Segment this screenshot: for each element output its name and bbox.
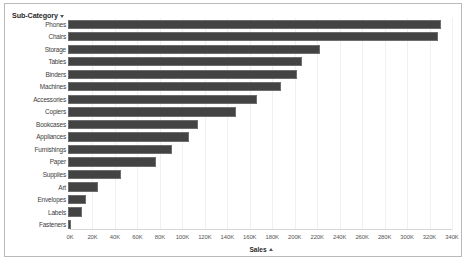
bar-row-label[interactable]: Supplies <box>5 171 68 178</box>
bar-row: Furnishings <box>5 144 461 154</box>
bar[interactable] <box>68 70 297 79</box>
bar-row: Art <box>5 182 461 192</box>
bar[interactable] <box>68 95 257 104</box>
x-axis-tick-label: 0K <box>66 234 73 240</box>
bar[interactable] <box>68 45 320 54</box>
bar-row-label[interactable]: Copiers <box>5 108 68 115</box>
x-axis-tick-label: 120K <box>198 234 211 240</box>
x-axis-tick-label: 140K <box>221 234 234 240</box>
bar-row: Paper <box>5 157 461 167</box>
plot-area: PhonesChairsStorageTablesBindersMachines… <box>5 18 461 256</box>
bar-track <box>68 119 461 129</box>
bar-row: Storage <box>5 44 461 54</box>
x-axis-tick-label: 160K <box>243 234 256 240</box>
bar[interactable] <box>68 82 281 91</box>
x-axis-line <box>70 229 452 230</box>
bar[interactable] <box>68 120 198 129</box>
bar-track <box>68 82 461 92</box>
x-axis-title: Sales <box>70 244 452 255</box>
x-axis-tick-label: 180K <box>266 234 279 240</box>
x-axis-tick-label: 200K <box>288 234 301 240</box>
bar-track <box>68 132 461 142</box>
bar-row: Appliances <box>5 132 461 142</box>
x-axis-tick-label: 240K <box>333 234 346 240</box>
bar-row-label[interactable]: Phones <box>5 21 68 28</box>
x-axis-tick-label: 220K <box>310 234 323 240</box>
bar-track <box>68 107 461 117</box>
bar-track <box>68 32 461 42</box>
x-axis-tick-label: 260K <box>355 234 368 240</box>
bar[interactable] <box>68 207 82 216</box>
x-axis-tick-label: 300K <box>400 234 413 240</box>
bar-rows: PhonesChairsStorageTablesBindersMachines… <box>5 18 461 230</box>
bar-track <box>68 182 461 192</box>
x-axis-tick-label: 280K <box>378 234 391 240</box>
bar-row-label[interactable]: Machines <box>5 83 68 90</box>
bar-row: Chairs <box>5 32 461 42</box>
bar[interactable] <box>68 32 438 41</box>
bar-row-label[interactable]: Art <box>5 184 68 191</box>
bar[interactable] <box>68 20 441 29</box>
bar-row-label[interactable]: Tables <box>5 58 68 65</box>
bar-row-label[interactable]: Bookcases <box>5 121 68 128</box>
bar-row-label[interactable]: Appliances <box>5 133 68 140</box>
x-axis-title-label: Sales <box>249 246 266 253</box>
bar-row-label[interactable]: Paper <box>5 158 68 165</box>
bar-row-label[interactable]: Binders <box>5 71 68 78</box>
bar-row: Tables <box>5 57 461 67</box>
bar-track <box>68 19 461 29</box>
bar-row: Bookcases <box>5 119 461 129</box>
x-axis-tick-label: 340K <box>445 234 458 240</box>
bar-row-label[interactable]: Envelopes <box>5 196 68 203</box>
bar[interactable] <box>68 195 86 204</box>
bar[interactable] <box>68 220 71 229</box>
bar-row-label[interactable]: Labels <box>5 209 68 216</box>
bar-track <box>68 94 461 104</box>
x-axis-tick-label: 320K <box>423 234 436 240</box>
bar-track <box>68 144 461 154</box>
bar-track <box>68 169 461 179</box>
x-axis-tick-label: 20K <box>87 234 97 240</box>
bar-track <box>68 44 461 54</box>
x-axis-tick-label: 80K <box>155 234 165 240</box>
bar-row: Accessories <box>5 94 461 104</box>
bar-row: Phones <box>5 19 461 29</box>
bar[interactable] <box>68 170 121 179</box>
bar-row: Envelopes <box>5 194 461 204</box>
bar-row-label[interactable]: Fasteners <box>5 221 68 228</box>
bar-row: Labels <box>5 207 461 217</box>
bar-row-label[interactable]: Chairs <box>5 33 68 40</box>
bar-track <box>68 57 461 67</box>
chart-panel: Sub-Category PhonesChairsStorageTablesBi… <box>4 3 462 257</box>
bar-track <box>68 69 461 79</box>
bar[interactable] <box>68 182 98 191</box>
x-axis-tick-label: 100K <box>176 234 189 240</box>
bar-row: Supplies <box>5 169 461 179</box>
bar[interactable] <box>68 132 189 141</box>
sort-ascending-caret-icon[interactable] <box>269 248 273 251</box>
bar-row: Copiers <box>5 107 461 117</box>
bar[interactable] <box>68 57 302 66</box>
bar-row: Binders <box>5 69 461 79</box>
bar[interactable] <box>68 157 156 166</box>
bar-row-label[interactable]: Furnishings <box>5 146 68 153</box>
x-axis-tick-label: 60K <box>132 234 142 240</box>
x-axis-tick-label: 40K <box>110 234 120 240</box>
bar[interactable] <box>68 107 236 116</box>
bar-track <box>68 157 461 167</box>
bar-row-label[interactable]: Storage <box>5 46 68 53</box>
bar-row-label[interactable]: Accessories <box>5 96 68 103</box>
bar[interactable] <box>68 145 172 154</box>
bar-row: Machines <box>5 82 461 92</box>
x-axis-ticks: 0K20K40K60K80K100K120K140K160K180K200K22… <box>70 232 452 244</box>
bar-track <box>68 207 461 217</box>
bar-track <box>68 194 461 204</box>
